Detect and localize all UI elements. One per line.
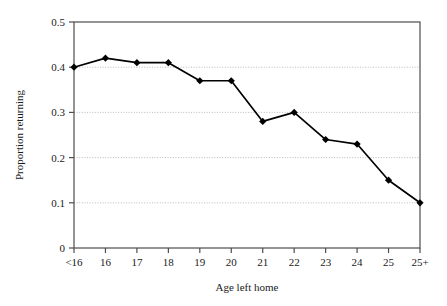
y-tick-label-0.5: 0.5	[51, 16, 65, 28]
x-tick-label-24: 24	[352, 256, 364, 268]
line-chart: 00.10.20.30.40.5 <1616171819202122232425…	[0, 0, 447, 306]
x-tick-label-19: 19	[194, 256, 206, 268]
y-tick-label-0.2: 0.2	[51, 152, 65, 164]
y-tick-label-0.4: 0.4	[51, 61, 65, 73]
y-axis-title: Proportion returning	[13, 89, 25, 180]
x-tick-label-16: 16	[100, 256, 112, 268]
x-tick-label-17: 17	[131, 256, 143, 268]
x-tick-label-25+: 25+	[411, 256, 428, 268]
x-tick-label-23: 23	[320, 256, 332, 268]
y-tick-label-0.1: 0.1	[51, 197, 65, 209]
chart-container: 00.10.20.30.40.5 <1616171819202122232425…	[0, 0, 447, 306]
x-tick-label-18: 18	[163, 256, 175, 268]
x-tick-label-21: 21	[257, 256, 268, 268]
x-tick-label-<16: <16	[65, 256, 83, 268]
x-tick-label-25: 25	[383, 256, 395, 268]
y-tick-label-0: 0	[60, 242, 66, 254]
y-tick-label-0.3: 0.3	[51, 106, 65, 118]
x-tick-label-20: 20	[226, 256, 238, 268]
x-axis-title: Age left home	[216, 281, 279, 293]
x-tick-label-22: 22	[289, 256, 300, 268]
